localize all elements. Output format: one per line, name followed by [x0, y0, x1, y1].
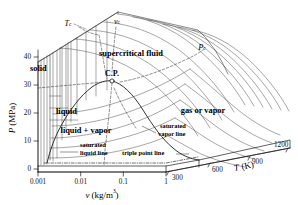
- pressure-tick-30: 30: [24, 81, 32, 89]
- region-label-solid: solid: [30, 64, 47, 73]
- pressure-axis-unit: (MPa): [7, 103, 17, 126]
- pressure-axis-title: P(MPa): [7, 103, 17, 135]
- volume-axis-name: v: [85, 190, 89, 200]
- temperature-tick-300: 300: [172, 174, 183, 182]
- critical-volume-label: vc: [114, 17, 121, 26]
- critical-point-label: C.P.: [105, 69, 119, 78]
- pressure-tick-40: 40: [24, 53, 32, 61]
- region-label-supercritical-fluid: supercritical fluid: [99, 49, 163, 58]
- pvt-diagram-svg: 40 30 20 10 0 P(MPa) 0.001 0.01 0.1 1 v(…: [0, 0, 298, 205]
- region-label-gas-or-vapor: gas or vapor: [181, 106, 226, 115]
- critical-pressure-label: Pc: [197, 43, 206, 52]
- region-label-liquid-vapor: liquid + vapor: [61, 126, 112, 135]
- figure-background: [0, 0, 298, 205]
- temperature-tick-600: 600: [212, 166, 223, 174]
- volume-axis-unit: (kg/m: [91, 190, 113, 200]
- temperature-tick-1200: 1200: [274, 141, 289, 149]
- triple-point-line-label: triple point line: [122, 149, 164, 156]
- pressure-tick-10: 10: [24, 137, 32, 145]
- pressure-axis-name: P: [7, 127, 17, 134]
- pvt-surface-figure: 40 30 20 10 0 P(MPa) 0.001 0.01 0.1 1 v(…: [0, 0, 298, 205]
- region-label-liquid: liquid: [56, 107, 77, 116]
- critical-temperature-label: Tc: [65, 19, 72, 28]
- pressure-tick-0: 0: [27, 165, 31, 173]
- volume-tick-01: 0.1: [119, 178, 128, 186]
- saturated-vapor-line-annotation: saturated vapor line: [158, 122, 186, 137]
- saturated-liquid-line-text-1: saturated: [80, 141, 106, 148]
- volume-axis-unit-close: ): [116, 190, 119, 200]
- svg-text:P(MPa): P(MPa): [7, 103, 17, 135]
- volume-tick-0001: 0.001: [30, 178, 47, 186]
- saturated-liquid-line-annotation: saturated liquid line: [80, 141, 108, 156]
- critical-point-marker: [110, 79, 114, 83]
- volume-tick-001: 0.01: [74, 178, 87, 186]
- saturated-liquid-line-text-2: liquid line: [80, 149, 108, 156]
- pressure-tick-20: 20: [24, 109, 32, 117]
- saturated-vapor-line-text-1: saturated: [160, 122, 186, 129]
- volume-tick-1: 1: [164, 178, 168, 186]
- saturated-vapor-line-text-2: vapor line: [158, 130, 186, 137]
